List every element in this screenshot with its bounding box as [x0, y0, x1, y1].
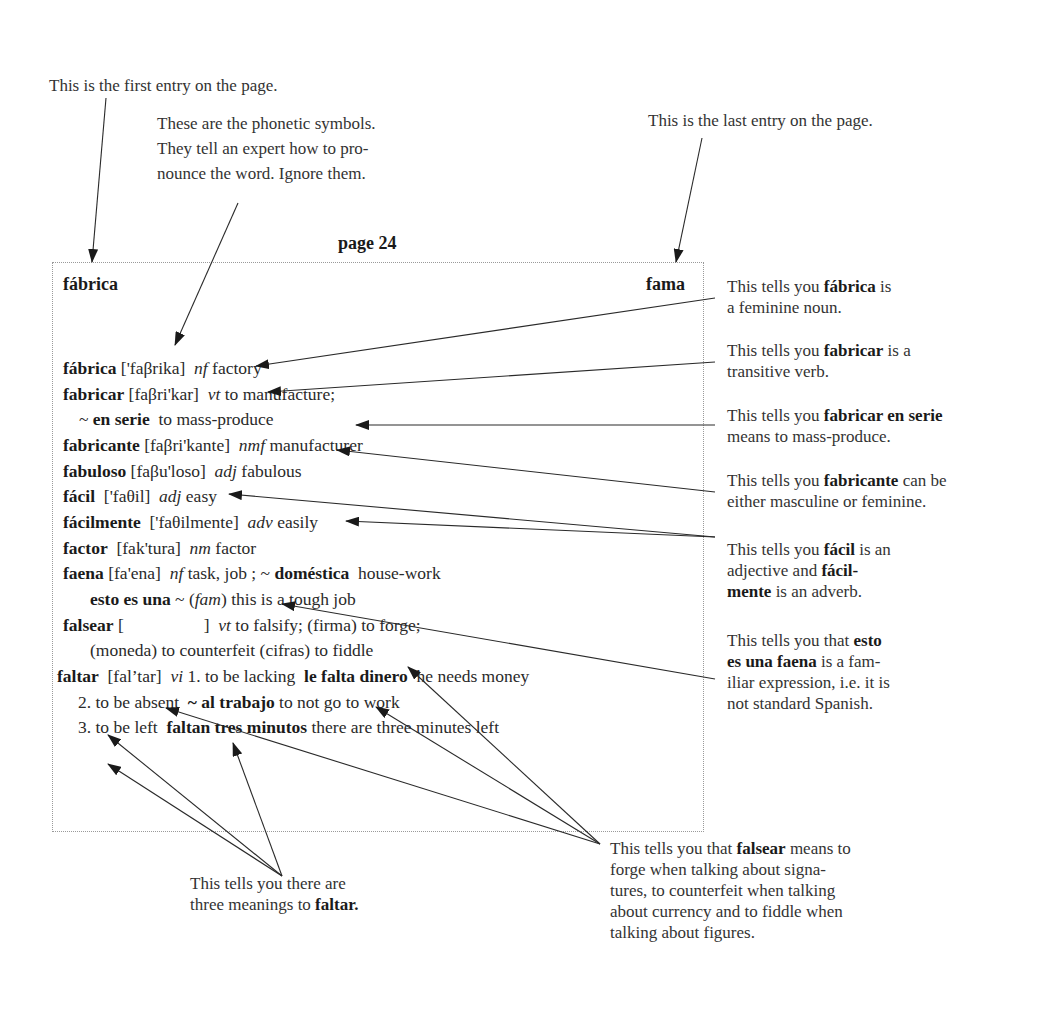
- tilde: ~: [261, 563, 270, 583]
- entry-fabricar: fabricar [faβri'kar] vt to manufacture;: [63, 382, 335, 406]
- phrase: en serie: [93, 409, 150, 429]
- headword: fácilmente: [63, 512, 141, 532]
- entry-fabrica: fábrica ['faβrika] nf factory: [63, 356, 262, 380]
- note-text: This tells you: [727, 341, 824, 360]
- definition: easy: [186, 486, 217, 506]
- part-of-speech: nm: [190, 538, 211, 558]
- note-text: This tells you there are: [190, 873, 358, 894]
- bottom-note-faltar: This tells you there are three meanings …: [190, 873, 358, 915]
- definition: task, job ;: [188, 563, 257, 583]
- entry-falsear: falsear [] vt to falsify; (firma) to for…: [63, 613, 421, 637]
- phonetic: ['faβrika]: [121, 358, 186, 378]
- side-note-fabricante: This tells you fabricante can be either …: [727, 470, 947, 512]
- note-text: This tells you: [727, 540, 824, 559]
- entry-fabricante: fabricante [faβri'kante] nmf manufacture…: [63, 433, 363, 457]
- note-term: fabricar: [824, 341, 883, 360]
- note-text: three meanings to: [190, 895, 315, 914]
- side-note-fabricar: This tells you fabricar is a transitive …: [727, 340, 911, 382]
- headword: fabricar: [63, 384, 124, 404]
- entry-faena: faena [fa'ena] nf task, job ; ~ doméstic…: [63, 561, 441, 585]
- part-of-speech: nmf: [239, 435, 265, 455]
- headword: factor: [63, 538, 108, 558]
- note-text: is: [876, 277, 892, 296]
- definition: 1. to be lacking: [187, 666, 295, 686]
- entry-faltar-2: 2. to be absent ~ al trabajo to not go t…: [78, 690, 400, 714]
- phonetic: ['faθilmente]: [150, 512, 239, 532]
- part-of-speech: nf: [194, 358, 208, 378]
- definition: factory: [212, 358, 262, 378]
- note-text: is a fam-: [817, 652, 881, 671]
- side-note-facil: This tells you fácil is an adjective and…: [727, 539, 891, 602]
- note-term: fácil-: [821, 561, 858, 580]
- part-of-speech: adj: [159, 486, 181, 506]
- guide-word-last: fama: [646, 274, 685, 295]
- note-text: means to: [786, 839, 851, 858]
- guide-word-first: fábrica: [63, 274, 118, 295]
- bottom-note-falsear: This tells you that falsear means to for…: [610, 838, 851, 943]
- note-text: adjective and: [727, 561, 821, 580]
- phonetic-open: [: [118, 615, 124, 635]
- note-term: faltar.: [315, 895, 358, 914]
- tilde: ~: [188, 692, 197, 712]
- note-text: transitive verb.: [727, 361, 911, 382]
- phrase: faltan tres minutos: [166, 717, 307, 737]
- headword: fábrica: [63, 358, 116, 378]
- note-text: iliar expression, i.e. it is: [727, 672, 890, 693]
- note-text: tures, to counterfeit when talking: [610, 880, 851, 901]
- note-text: This tells you: [727, 406, 824, 425]
- note-text: is a: [883, 341, 910, 360]
- note-term: fábrica: [824, 277, 876, 296]
- note-term: fácil: [824, 540, 855, 559]
- note-text: either masculine or feminine.: [727, 491, 947, 512]
- headword: faena: [63, 563, 104, 583]
- note-text: talking about figures.: [610, 922, 851, 943]
- tilde: ~: [175, 589, 184, 609]
- phrase: le falta dinero: [304, 666, 408, 686]
- note-term: falsear: [737, 839, 786, 858]
- entry-factor: factor [fak'tura] nm factor: [63, 536, 256, 560]
- definition: there are three minutes left: [311, 717, 499, 737]
- note-text: is an: [855, 540, 891, 559]
- definition: he needs money: [417, 666, 530, 686]
- definition: to not go to work: [279, 692, 400, 712]
- arrow-last-entry: [676, 138, 702, 262]
- entry-faltar: faltar [fal’tar] vi 1. to be lacking le …: [57, 664, 529, 688]
- note-text: forge when talking about signa-: [610, 859, 851, 880]
- note-text: can be: [898, 471, 946, 490]
- note-text: This tells you: [727, 471, 824, 490]
- phrase: al trabajo: [201, 692, 274, 712]
- definition: 2. to be absent: [78, 692, 179, 712]
- note-first-entry: This is the first entry on the page.: [49, 75, 278, 96]
- headword: fabricante: [63, 435, 140, 455]
- note-term: fabricante: [824, 471, 899, 490]
- note-line: These are the phonetic symbols.: [157, 113, 376, 134]
- note-text: This tells you that: [610, 839, 737, 858]
- note-last-entry: This is the last entry on the page.: [648, 110, 873, 131]
- note-term: es una faena: [727, 652, 817, 671]
- phonetic: [fa'ena]: [108, 563, 161, 583]
- note-term: esto: [854, 631, 882, 650]
- side-note-esto-es-una-faena: This tells you that esto es una faena is…: [727, 630, 890, 714]
- entry-facilmente: fácilmente ['faθilmente] adv easily: [63, 510, 318, 534]
- note-text: is an adverb.: [771, 582, 862, 601]
- phrase: doméstica: [274, 563, 349, 583]
- entry-faltar-3: 3. to be left faltan tres minutos there …: [78, 715, 499, 739]
- phonetic: ['faθil]: [104, 486, 151, 506]
- definition: easily: [277, 512, 318, 532]
- note-line: nounce the word. Ignore them.: [157, 163, 376, 184]
- note-term: mente: [727, 582, 771, 601]
- definition: to mass-produce: [158, 409, 273, 429]
- entry-en-serie: ~ en serie to mass-produce: [79, 407, 274, 431]
- side-note-fabrica: This tells you fábrica is a feminine nou…: [727, 276, 891, 318]
- phonetic: [fal’tar]: [108, 666, 162, 686]
- definition: to falsify; (firma) to forge;: [235, 615, 420, 635]
- entry-facil: fácil ['faθil] adj easy: [63, 484, 217, 508]
- headword: faltar: [57, 666, 99, 686]
- phonetic: [fak'tura]: [116, 538, 180, 558]
- side-note-fabricar-en-serie: This tells you fabricar en serie means t…: [727, 405, 942, 447]
- part-of-speech: adv: [248, 512, 273, 532]
- part-of-speech: vi: [170, 666, 183, 686]
- note-phonetic-symbols: These are the phonetic symbols. They tel…: [157, 113, 376, 184]
- definition: 3. to be left: [78, 717, 158, 737]
- phrase: esto es una: [90, 589, 171, 609]
